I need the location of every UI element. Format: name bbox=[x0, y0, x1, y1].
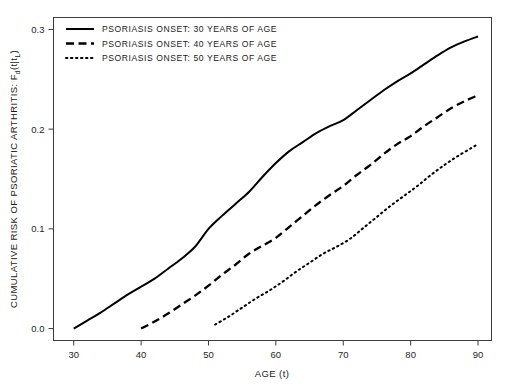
x-tick-label: 80 bbox=[405, 349, 416, 360]
curve-series-1 bbox=[74, 36, 478, 328]
chart-figure: 30405060708090 0.00.10.20.3 PSORIASIS ON… bbox=[0, 0, 528, 390]
chart-curves bbox=[74, 36, 478, 328]
x-tick-label: 90 bbox=[473, 349, 484, 360]
y-axis-ticks: 0.00.10.20.3 bbox=[31, 24, 53, 334]
x-axis-ticks: 30405060708090 bbox=[68, 341, 483, 360]
legend-label-2: PSORIASIS ONSET: 40 YEARS OF AGE bbox=[102, 39, 277, 49]
y-axis-title-group: CUMULATIVE RISK OF PSORIATIC ARTHRITIS: … bbox=[8, 50, 21, 308]
x-tick-label: 70 bbox=[338, 349, 349, 360]
x-axis-title: AGE (t) bbox=[255, 368, 289, 379]
y-axis-title-mid: (t|t bbox=[8, 58, 19, 71]
y-tick-label: 0.3 bbox=[31, 24, 44, 35]
x-tick-label: 30 bbox=[68, 349, 79, 360]
y-tick-label: 0.1 bbox=[31, 223, 44, 234]
legend-label-1: PSORIASIS ONSET: 30 YEARS OF AGE bbox=[102, 24, 277, 34]
y-tick-label: 0.2 bbox=[31, 124, 44, 135]
chart-svg: 30405060708090 0.00.10.20.3 PSORIASIS ON… bbox=[0, 0, 528, 390]
x-tick-label: 60 bbox=[271, 349, 282, 360]
curve-series-2 bbox=[141, 95, 478, 328]
legend-label-3: PSORIASIS ONSET: 50 YEARS OF AGE bbox=[102, 53, 277, 63]
y-axis-title: CUMULATIVE RISK OF PSORIATIC ARTHRITIS: … bbox=[8, 50, 21, 308]
y-axis-title-main: CUMULATIVE RISK OF PSORIATIC ARTHRITIS: … bbox=[8, 74, 19, 308]
curve-series-3 bbox=[215, 144, 478, 324]
chart-legend: PSORIASIS ONSET: 30 YEARS OF AGEPSORIASI… bbox=[66, 24, 277, 63]
x-tick-label: 40 bbox=[136, 349, 147, 360]
y-axis-title-end: ) bbox=[8, 50, 19, 54]
x-tick-label: 50 bbox=[203, 349, 214, 360]
y-tick-label: 0.0 bbox=[31, 323, 44, 334]
